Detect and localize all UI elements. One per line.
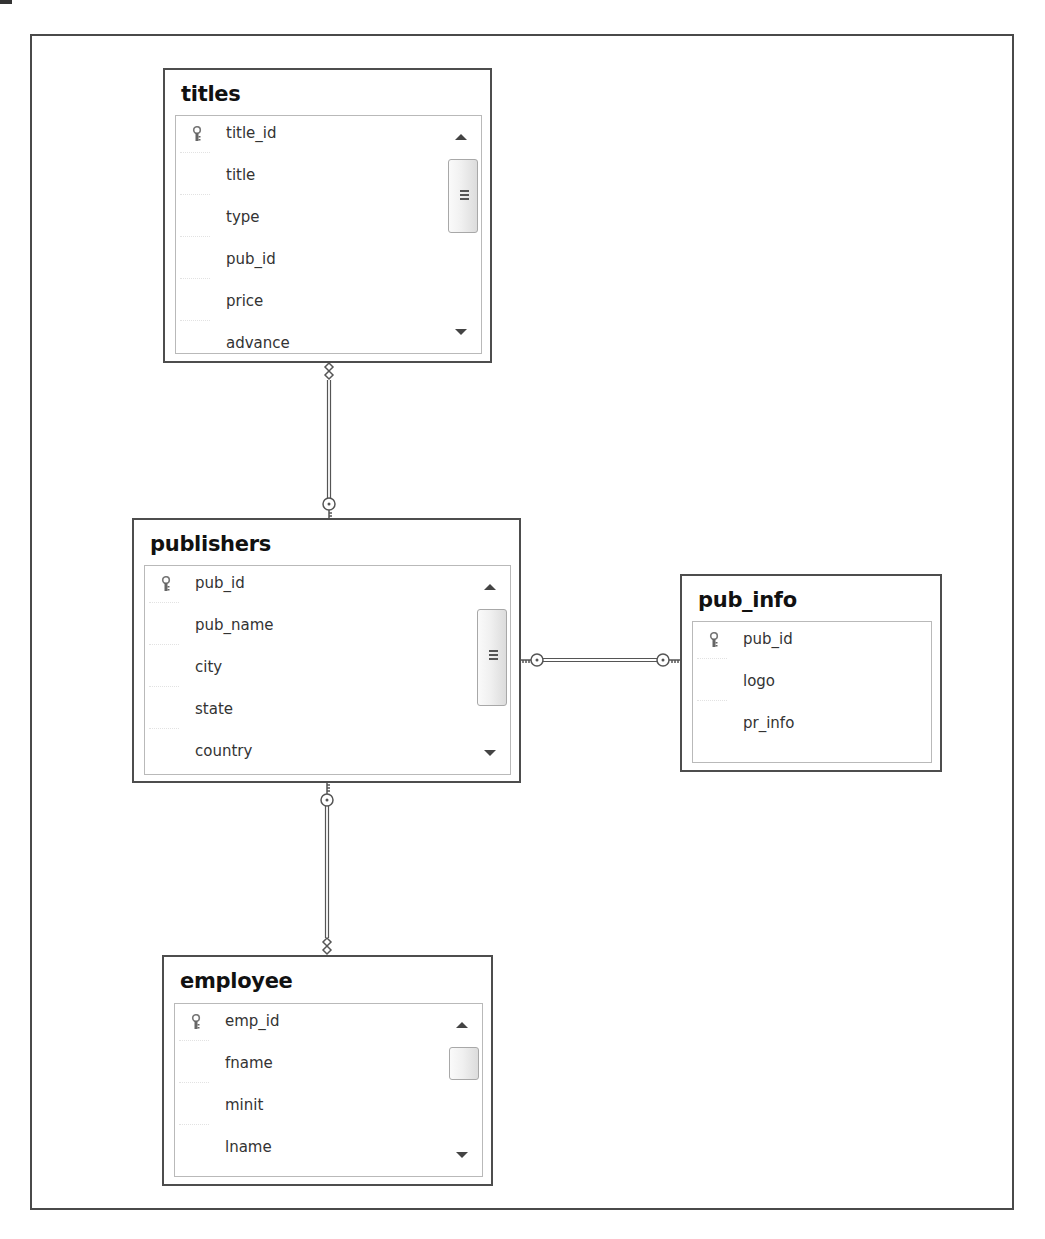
key-icon [323,498,335,520]
column-name: type [226,208,260,226]
table-title: pub_info [698,588,797,612]
scroll-thumb[interactable] [449,1047,479,1080]
scrollbar[interactable] [446,1004,482,1176]
relationship-publishers-pubinfo[interactable] [519,648,683,672]
column-list: title_id title type pub_id price advance [175,115,482,354]
column-row[interactable]: logo [693,664,931,706]
column-name: advance [226,334,290,352]
column-name: lname [225,1138,272,1156]
scroll-up-arrow-icon[interactable] [456,1022,468,1028]
row-separator [697,700,727,701]
column-name: price [226,292,263,310]
column-name: pub_id [226,250,276,268]
column-row[interactable]: pub_name [145,608,510,650]
column-row[interactable]: title [176,158,481,200]
scroll-up-arrow-icon[interactable] [455,134,467,140]
table-pub-info[interactable]: pub_info pub_id logo pr_info [680,574,942,772]
column-row[interactable]: type [176,200,481,242]
column-name: state [195,700,233,718]
scrollbar[interactable] [445,116,481,353]
column-row[interactable]: city [145,650,510,692]
row-separator [180,278,210,279]
column-name: pub_name [195,616,274,634]
column-row[interactable]: title_id [176,116,481,158]
key-icon [657,654,680,666]
column-row[interactable]: pub_id [693,622,931,664]
column-name: emp_id [225,1012,280,1030]
table-titles[interactable]: titles title_id title type pub_id price [163,68,492,363]
row-separator [179,1040,209,1041]
key-icon [521,654,543,666]
column-name: minit [225,1096,263,1114]
column-row[interactable]: fname [175,1046,482,1088]
column-row[interactable]: state [145,692,510,734]
column-name: country [195,742,252,760]
row-separator [180,320,210,321]
row-separator [149,686,179,687]
row-separator [179,1124,209,1125]
column-name: city [195,658,222,676]
scroll-up-arrow-icon[interactable] [484,584,496,590]
table-title: publishers [150,532,271,556]
column-row[interactable]: price [176,284,481,326]
column-name: pub_id [195,574,245,592]
column-name: title_id [226,124,277,142]
column-name: title [226,166,255,184]
scroll-down-arrow-icon[interactable] [455,329,467,335]
relationship-publishers-employee[interactable] [312,780,342,958]
column-row[interactable]: advance [176,326,481,354]
corner-mark [0,0,12,4]
row-separator [179,1082,209,1083]
column-list: emp_id fname minit lname [174,1003,483,1177]
primary-key-icon [192,126,202,142]
row-separator [149,644,179,645]
table-employee[interactable]: employee emp_id fname minit lname [162,955,493,1186]
column-name: pub_id [743,630,793,648]
column-name: pr_info [743,714,794,732]
column-row[interactable]: minit [175,1088,482,1130]
row-separator [180,152,210,153]
column-row[interactable]: emp_id [175,1004,482,1046]
column-name: logo [743,672,775,690]
relationship-titles-publishers[interactable] [314,360,344,522]
table-publishers[interactable]: publishers pub_id pub_name city state co… [132,518,521,783]
scrollbar[interactable] [474,566,510,774]
row-separator [697,658,727,659]
table-title: employee [180,969,293,993]
table-title: titles [181,82,240,106]
scroll-thumb[interactable] [448,159,478,233]
row-separator [180,236,210,237]
scroll-down-arrow-icon[interactable] [484,750,496,756]
row-separator [180,194,210,195]
column-row[interactable]: country [145,734,510,775]
column-row[interactable]: lname [175,1130,482,1172]
column-row[interactable]: pub_id [176,242,481,284]
scroll-thumb[interactable] [477,609,507,706]
infinity-icon [323,938,331,954]
column-row[interactable]: pr_info [693,706,931,748]
primary-key-icon [161,576,171,592]
column-row[interactable]: pub_id [145,566,510,608]
primary-key-icon [191,1014,201,1030]
primary-key-icon [709,632,719,648]
column-list: pub_id logo pr_info [692,621,932,763]
row-separator [149,728,179,729]
column-list: pub_id pub_name city state country [144,565,511,775]
column-name: fname [225,1054,273,1072]
infinity-icon [325,363,333,379]
scroll-down-arrow-icon[interactable] [456,1152,468,1158]
key-icon [321,782,333,806]
row-separator [149,602,179,603]
